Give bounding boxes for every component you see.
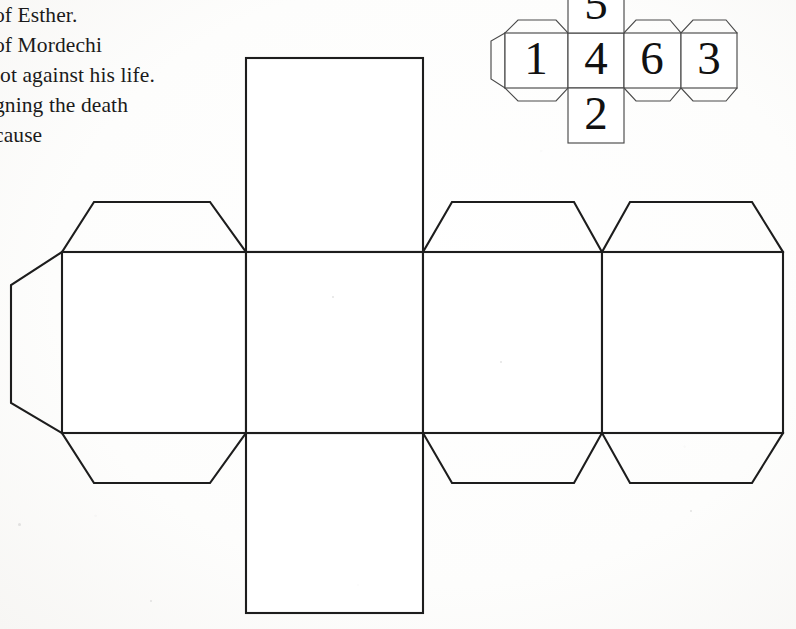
cube-net-face-top bbox=[246, 58, 423, 252]
dice-face-label-6: 6 bbox=[640, 32, 664, 84]
dice-number-net: 1 4 6 3 5 2 bbox=[491, 0, 737, 143]
cube-net-face-col4 bbox=[602, 252, 783, 433]
cube-net-face-col3 bbox=[423, 252, 602, 433]
dice-net-tab-bottom-1 bbox=[505, 88, 568, 101]
dice-face-label-5: 5 bbox=[584, 0, 608, 29]
cube-net-tab-bottom-col1 bbox=[62, 433, 246, 483]
cube-net-tab-top-col1 bbox=[62, 202, 246, 252]
cube-net-face-col1 bbox=[62, 252, 246, 433]
dice-face-label-3: 3 bbox=[697, 32, 721, 84]
cube-net-tab-bottom-col3 bbox=[423, 433, 602, 483]
dice-net-tab-bottom-3 bbox=[681, 88, 737, 101]
cube-net-tab-bottom-col4 bbox=[602, 433, 783, 483]
dice-face-label-4: 4 bbox=[584, 32, 608, 84]
cube-net-tab-top-col3 bbox=[423, 202, 602, 252]
net-drawings-canvas: 1 4 6 3 5 2 bbox=[0, 0, 796, 629]
cube-net-face-bottom bbox=[246, 433, 423, 613]
large-cube-net-cut-out bbox=[11, 58, 783, 613]
cube-net-tab-top-col4 bbox=[602, 202, 783, 252]
scanned-page: of Esther. of Mordechi lot against his l… bbox=[0, 0, 796, 629]
dice-net-left-tab bbox=[491, 33, 505, 88]
cube-net-left-pentagon-tab bbox=[11, 252, 62, 433]
dice-face-label-2: 2 bbox=[584, 87, 608, 139]
dice-face-label-1: 1 bbox=[524, 32, 548, 84]
cube-net-face-col2 bbox=[246, 252, 423, 433]
dice-net-tab-bottom-6 bbox=[624, 88, 681, 101]
